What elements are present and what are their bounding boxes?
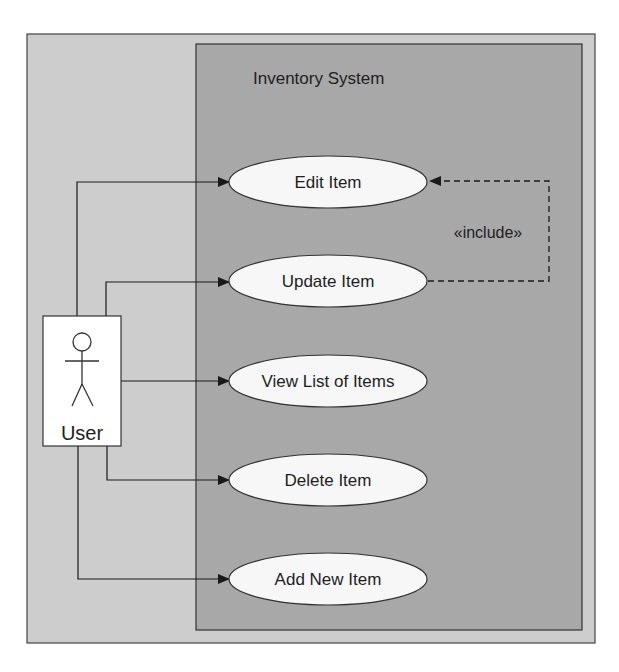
use-case-edit-item[interactable]: Edit Item: [229, 156, 427, 208]
system-boundary: Inventory System: [196, 44, 582, 630]
use-case-label: Add New Item: [275, 570, 382, 589]
use-case-update-item[interactable]: Update Item: [229, 255, 427, 307]
use-case-view-list-of-items[interactable]: View List of Items: [229, 355, 427, 407]
actor-label: User: [61, 422, 104, 444]
system-title: Inventory System: [253, 69, 384, 88]
use-case-label: Update Item: [282, 272, 375, 291]
include-stereotype-label: «include»: [454, 224, 523, 241]
use-case-delete-item[interactable]: Delete Item: [229, 454, 427, 506]
use-case-label: Edit Item: [294, 173, 361, 192]
actor-user[interactable]: User: [43, 316, 121, 446]
use-case-label: Delete Item: [285, 471, 372, 490]
use-case-label: View List of Items: [262, 372, 395, 391]
use-case-diagram: Inventory System «include» User Edit Ite…: [0, 0, 619, 672]
use-case-add-new-item[interactable]: Add New Item: [229, 553, 427, 605]
